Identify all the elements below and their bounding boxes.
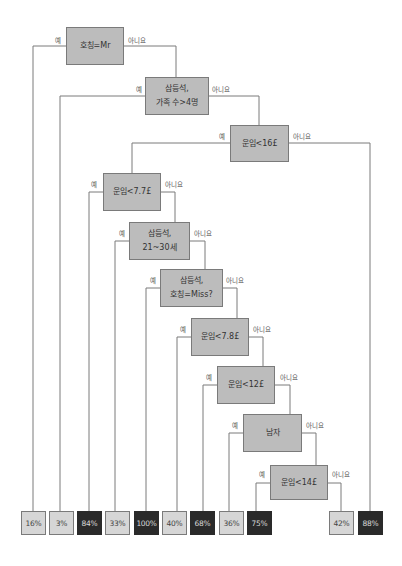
decision-node-third-class-age: 삼등석, 21~30세 xyxy=(129,222,190,260)
yes-label: 예 xyxy=(91,181,97,189)
yes-label: 예 xyxy=(232,422,238,430)
node-label: 호칭=Mr xyxy=(80,39,111,53)
yes-label: 예 xyxy=(206,374,212,382)
node-label: 가족 수>4명 xyxy=(156,96,198,110)
node-label: 운임<12£ xyxy=(228,378,264,392)
leaf-survival-rate: 16% xyxy=(21,511,46,535)
leaf-survival-rate: 88% xyxy=(358,511,383,535)
decision-node-fare-12: 운임<12£ xyxy=(217,366,275,404)
decision-node-third-class-family: 삼등석, 가족 수>4명 xyxy=(145,77,209,115)
node-label: 삼등석, xyxy=(180,274,204,288)
no-label: 아니요 xyxy=(306,422,324,430)
decision-node-fare-7-8: 운임<7.8£ xyxy=(191,318,249,356)
yes-label: 예 xyxy=(180,326,186,334)
node-label: 삼등석, xyxy=(165,82,189,96)
no-label: 아니요 xyxy=(226,277,244,285)
yes-label: 예 xyxy=(55,37,61,45)
leaf-survival-rate: 3% xyxy=(49,511,74,535)
leaf-survival-rate: 84% xyxy=(77,511,102,535)
no-label: 아니요 xyxy=(293,133,311,141)
node-label: 호칭=Miss? xyxy=(170,288,212,302)
node-label: 운임<7.8£ xyxy=(201,330,240,344)
node-label: 운임<7.7£ xyxy=(113,185,152,199)
decision-tree: 호칭=Mr 삼등석, 가족 수>4명 운임<16£ 운임<7.7£ 삼등석, 2… xyxy=(0,0,402,566)
no-label: 아니요 xyxy=(212,86,230,94)
leaf-survival-rate: 42% xyxy=(329,511,354,535)
decision-node-title-mr: 호칭=Mr xyxy=(66,27,124,65)
leaf-survival-rate: 75% xyxy=(247,511,272,535)
yes-label: 예 xyxy=(219,133,225,141)
yes-label: 예 xyxy=(150,277,156,285)
no-label: 아니요 xyxy=(332,471,350,479)
no-label: 아니요 xyxy=(128,37,146,45)
yes-label: 예 xyxy=(136,86,142,94)
leaf-survival-rate: 68% xyxy=(190,511,215,535)
no-label: 아니요 xyxy=(165,181,183,189)
no-label: 아니요 xyxy=(253,326,271,334)
node-label: 운임<16£ xyxy=(242,137,278,151)
leaf-survival-rate: 100% xyxy=(134,511,159,535)
decision-node-male: 남자 xyxy=(243,414,302,452)
no-label: 아니요 xyxy=(280,374,298,382)
node-label: 남자 xyxy=(266,426,280,440)
yes-label: 예 xyxy=(119,230,125,238)
no-label: 아니요 xyxy=(194,230,212,238)
node-label: 21~30세 xyxy=(142,241,176,255)
node-label: 운임<14£ xyxy=(281,476,317,490)
yes-label: 예 xyxy=(259,471,265,479)
leaf-survival-rate: 33% xyxy=(105,511,130,535)
leaf-survival-rate: 36% xyxy=(219,511,244,535)
decision-node-fare-7-7: 운임<7.7£ xyxy=(103,173,161,211)
decision-node-fare-16: 운임<16£ xyxy=(230,125,289,162)
decision-node-fare-14: 운임<14£ xyxy=(270,465,328,500)
node-label: 삼등석, xyxy=(148,227,172,241)
leaf-survival-rate: 40% xyxy=(162,511,187,535)
decision-node-third-class-miss: 삼등석, 호칭=Miss? xyxy=(160,269,223,307)
